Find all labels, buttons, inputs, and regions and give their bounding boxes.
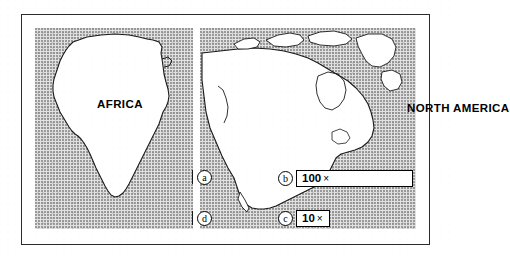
scale-box-b: 100 ×: [296, 170, 413, 187]
panel-title-africa: AFRICA: [97, 99, 143, 111]
panel-africa: AFRICA: [35, 28, 193, 229]
panel-title-north-america: NORTH AMERICA: [407, 103, 510, 115]
north-america-map-outline: [200, 28, 416, 229]
marker-label-a: a: [197, 170, 212, 185]
tick-mark-d: [192, 211, 193, 225]
panel-north-america: NORTH AMERICA: [200, 28, 416, 229]
africa-map-outline: [35, 28, 193, 229]
marker-label-b: b: [278, 171, 293, 186]
figure-frame: AFRICA NORTH AMERICA: [21, 14, 430, 245]
tick-mark-a: [192, 170, 193, 184]
marker-label-c: c: [278, 211, 293, 226]
multiplier-symbol-b: ×: [323, 174, 329, 184]
marker-label-d: d: [197, 211, 212, 226]
multiplier-symbol-c: ×: [317, 214, 323, 224]
scale-value-b: 100: [302, 173, 321, 185]
scale-box-c: 10 ×: [296, 210, 330, 227]
scale-value-c: 10: [302, 213, 315, 225]
